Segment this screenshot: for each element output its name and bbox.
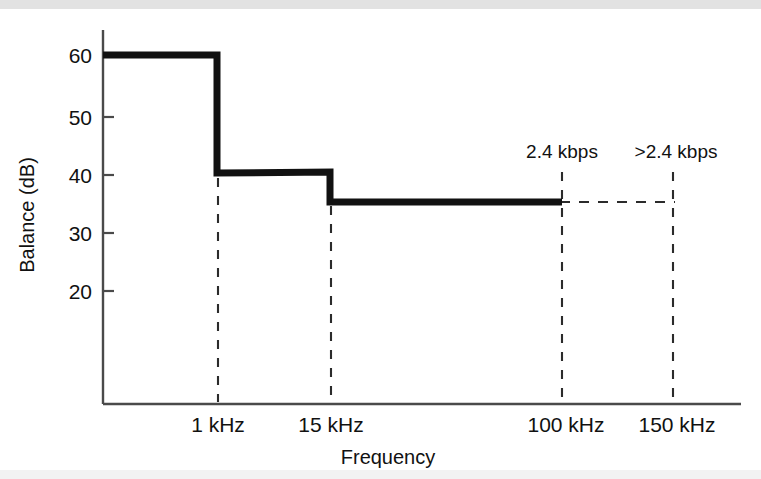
y-tick-label-30: 30 (69, 222, 92, 245)
figure-page: 60 50 40 30 20 Balance (dB) 2.4 kbps >2.… (0, 0, 761, 479)
annotation-2p4-kbps: 2.4 kbps (526, 141, 598, 162)
x-tick-label-150khz: 150 kHz (638, 413, 715, 436)
x-tick-label-100khz: 100 kHz (527, 413, 604, 436)
balance-step-curve (103, 55, 562, 202)
balance-vs-frequency-chart: 60 50 40 30 20 Balance (dB) 2.4 kbps >2.… (0, 0, 761, 479)
y-tick-label-60: 60 (69, 44, 92, 67)
x-axis-title: Frequency (341, 446, 436, 468)
annotation-greater-2p4-kbps: >2.4 kbps (635, 141, 718, 162)
y-tick-label-50: 50 (69, 106, 92, 129)
y-tick-label-20: 20 (69, 280, 92, 303)
y-tick-label-40: 40 (69, 164, 92, 187)
y-axis-title: Balance (dB) (16, 157, 38, 273)
x-tick-label-15khz: 15 kHz (298, 413, 363, 436)
x-tick-label-1khz: 1 kHz (191, 413, 245, 436)
